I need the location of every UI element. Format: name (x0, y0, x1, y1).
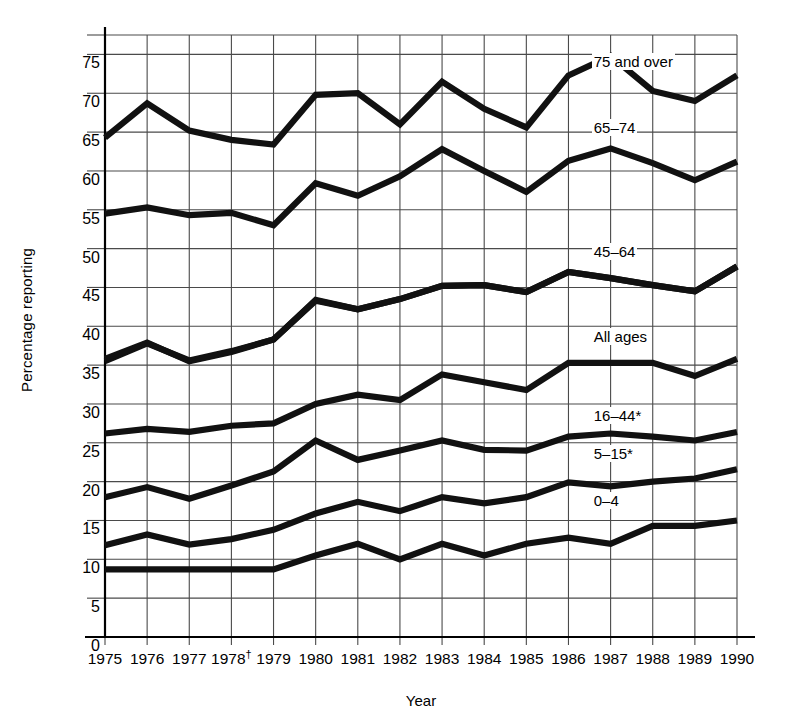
series-label-all-ages: All ages (592, 328, 649, 345)
series-label-16-44: 16–44* (592, 407, 644, 424)
chart-figure: Percentage reporting 7570656055504540353… (0, 0, 794, 728)
x-tick-label: 1990 (707, 650, 767, 668)
series-label-45-64: 45–64 (592, 243, 638, 260)
x-axis-ticks: 1975197619771978†19791980198119821983198… (0, 0, 794, 728)
series-label-5-15: 5–15* (592, 445, 635, 462)
x-axis-title: Year (105, 692, 737, 709)
series-label-0-4: 0–4 (592, 492, 621, 509)
series-label-75-and-over: 75 and over (592, 53, 675, 70)
series-label-65-74: 65–74 (592, 119, 638, 136)
